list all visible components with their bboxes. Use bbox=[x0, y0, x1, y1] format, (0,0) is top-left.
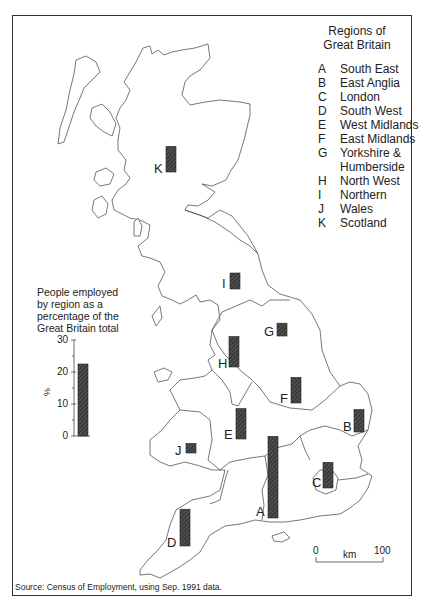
scale-start-label: 0 bbox=[313, 545, 319, 556]
key-title: People employed by region as a percentag… bbox=[37, 286, 147, 334]
region-label-d: D bbox=[167, 536, 176, 549]
region-label-i: I bbox=[222, 277, 226, 290]
region-label-f: F bbox=[280, 392, 288, 405]
region-bar-i bbox=[230, 273, 240, 289]
legend-title-line-1: Regions of bbox=[312, 24, 402, 38]
region-bar-e bbox=[236, 409, 246, 439]
key-tick-30: 30 bbox=[48, 334, 68, 345]
region-label-e: E bbox=[224, 428, 233, 441]
scale-unit-label: km bbox=[343, 549, 356, 560]
key-axis-label: % bbox=[42, 388, 52, 396]
legend-code: A bbox=[318, 62, 340, 76]
island-mull bbox=[94, 168, 114, 186]
legend-name: Scotland bbox=[340, 216, 387, 230]
key-example-bar bbox=[78, 364, 88, 436]
legend-item: DSouth West bbox=[318, 104, 418, 118]
key-title-line: by region as a bbox=[37, 298, 147, 310]
region-label-g: G bbox=[264, 325, 274, 338]
key-title-line: People employed bbox=[37, 286, 147, 298]
region-label-a: A bbox=[256, 505, 265, 518]
region-bar-d bbox=[180, 509, 190, 546]
legend-item: JWales bbox=[318, 202, 418, 216]
legend-name: Wales bbox=[340, 202, 373, 216]
island-wight bbox=[272, 532, 290, 542]
legend-item: ASouth East bbox=[318, 62, 418, 76]
island-anglesey bbox=[154, 368, 172, 382]
legend-title-line-2: Great Britain bbox=[312, 38, 402, 52]
island-man bbox=[152, 306, 162, 326]
legend-code: I bbox=[318, 188, 340, 202]
legend-list: ASouth East BEast Anglia CLondon DSouth … bbox=[318, 62, 418, 230]
region-label-j: J bbox=[175, 444, 182, 457]
scale-end-label: 100 bbox=[374, 545, 391, 556]
legend-item: KScotland bbox=[318, 216, 418, 230]
legend-code: K bbox=[318, 216, 340, 230]
region-bar-j bbox=[186, 443, 196, 453]
legend-code: C bbox=[318, 90, 340, 104]
key-tick-0: 0 bbox=[48, 430, 68, 441]
legend-name: West Midlands bbox=[340, 118, 418, 132]
island-islay bbox=[92, 196, 108, 218]
legend-item: BEast Anglia bbox=[318, 76, 418, 90]
region-label-h: H bbox=[218, 357, 227, 370]
legend-name: London bbox=[340, 90, 380, 104]
legend-name: East Anglia bbox=[340, 76, 400, 90]
legend-item: EWest Midlands bbox=[318, 118, 418, 132]
source-note: Source: Census of Employment, using Sep.… bbox=[15, 582, 222, 592]
legend-name: South West bbox=[340, 104, 402, 118]
region-legend: Regions of Great Britain ASouth East BEa… bbox=[318, 24, 418, 230]
legend-item: INorthern bbox=[318, 188, 418, 202]
legend-item: CLondon bbox=[318, 90, 418, 104]
region-bar-c bbox=[323, 462, 333, 488]
legend-code: J bbox=[318, 202, 340, 216]
legend-item: HNorth West bbox=[318, 174, 418, 188]
key-tick-20: 20 bbox=[48, 366, 68, 377]
legend-code: E bbox=[318, 118, 340, 132]
legend-name: North West bbox=[340, 174, 400, 188]
key-tick-10: 10 bbox=[48, 398, 68, 409]
legend-name: East Midlands bbox=[340, 132, 415, 146]
legend-code: H bbox=[318, 174, 340, 188]
legend-code: G bbox=[318, 146, 340, 174]
legend-name: Yorkshire & Humberside bbox=[340, 146, 405, 174]
island-skye bbox=[90, 104, 116, 136]
island-outer-hebrides bbox=[58, 56, 100, 144]
region-bar-h bbox=[229, 337, 239, 367]
region-bar-k bbox=[166, 146, 176, 172]
legend-code: F bbox=[318, 132, 340, 146]
legend-item: GYorkshire & Humberside bbox=[318, 146, 418, 174]
region-bar-f bbox=[291, 377, 301, 403]
legend-item: FEast Midlands bbox=[318, 132, 418, 146]
legend-title: Regions of Great Britain bbox=[312, 24, 402, 52]
region-bar-a bbox=[268, 436, 278, 518]
region-bar-b bbox=[354, 410, 364, 432]
legend-code: D bbox=[318, 104, 340, 118]
region-label-k: K bbox=[154, 162, 163, 175]
region-label-b: B bbox=[343, 420, 352, 433]
legend-name: Northern bbox=[340, 188, 387, 202]
region-bar-g bbox=[277, 323, 287, 336]
key-title-line: Great Britain total bbox=[37, 322, 147, 334]
legend-name: South East bbox=[340, 62, 399, 76]
region-label-c: C bbox=[312, 476, 321, 489]
legend-code: B bbox=[318, 76, 340, 90]
key-title-line: percentage of the bbox=[37, 310, 147, 322]
